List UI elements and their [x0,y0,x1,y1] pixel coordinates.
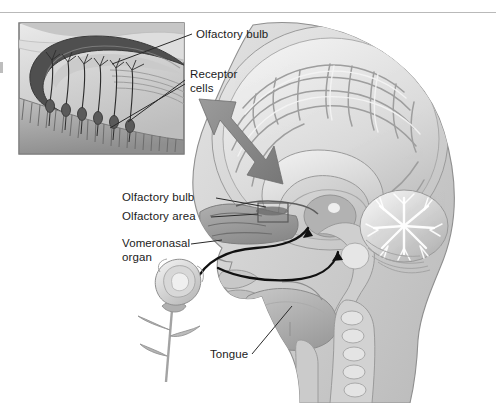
olfactory-epithelium-inset [19,23,186,154]
label-inset-olfactory-bulb: Olfactory bulb [196,28,268,42]
interthalamic-adhesion [328,203,340,213]
label-inset-receptor-cells: Receptor cells [190,68,237,95]
left-edge-mark [0,62,3,73]
diagram-artwork [0,0,496,403]
rose-odor-source [138,259,203,382]
flower-leaf-right [170,326,200,337]
flower-stem [166,310,172,382]
olfactory-bulb-head [256,207,288,216]
olfaction-figure: Olfactory bulb Receptor cells Olfactory … [0,0,496,403]
label-head-olfactory-bulb: Olfactory bulb [122,191,194,205]
flower-leaf-left-lower [140,344,167,356]
label-head-olfactory-area: Olfactory area [122,210,196,224]
label-tongue: Tongue [210,348,248,362]
flower-petal-core [172,273,189,291]
label-vomeronasal-organ: Vomeronasal organ [122,237,190,264]
flower-leaf-left-upper [138,316,170,330]
trachea [296,340,318,403]
pons [341,243,369,269]
